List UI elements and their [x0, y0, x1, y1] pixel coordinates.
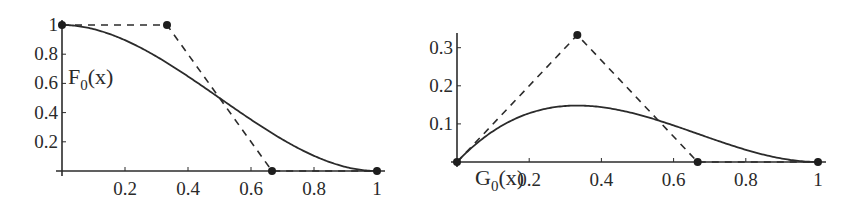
control-point: [694, 158, 702, 166]
y-tick-label: 0.4: [34, 102, 58, 123]
control-point: [573, 31, 581, 39]
x-tick-label: 1: [813, 169, 823, 190]
control-point: [453, 158, 461, 166]
control-point: [814, 158, 822, 166]
control-polygon: [457, 35, 818, 162]
y-tick-label: 1: [49, 14, 59, 35]
y-tick-label: 0.3: [429, 37, 453, 58]
y-tick-label: 0.2: [34, 131, 58, 152]
control-point: [58, 21, 66, 29]
function-curve: [62, 25, 377, 171]
x-tick-label: 0.4: [590, 169, 614, 190]
x-tick-label: 0.8: [302, 178, 326, 199]
control-point: [268, 167, 276, 175]
x-tick-label: 0.6: [239, 178, 263, 199]
y-tick-label: 0.2: [429, 75, 453, 96]
function-curve: [457, 106, 818, 162]
plot-f0: 0.20.40.60.810.20.40.60.81F0(x): [34, 14, 385, 199]
x-tick-label: 0.8: [734, 169, 758, 190]
plot-g0: 0.20.40.60.810.10.20.3G0(x): [429, 31, 826, 194]
x-tick-label: 0.6: [662, 169, 686, 190]
function-label: G0(x): [475, 165, 524, 194]
x-tick-label: 0.4: [176, 178, 200, 199]
x-tick-label: 1: [372, 178, 382, 199]
control-point: [373, 167, 381, 175]
figure: 0.20.40.60.810.20.40.60.81F0(x) 0.20.40.…: [0, 0, 847, 209]
y-tick-label: 0.1: [429, 113, 453, 134]
function-label: F0(x): [68, 64, 113, 93]
control-point: [163, 21, 171, 29]
y-tick-label: 0.6: [34, 72, 58, 93]
x-tick-label: 0.2: [113, 178, 137, 199]
y-tick-label: 0.8: [34, 43, 58, 64]
